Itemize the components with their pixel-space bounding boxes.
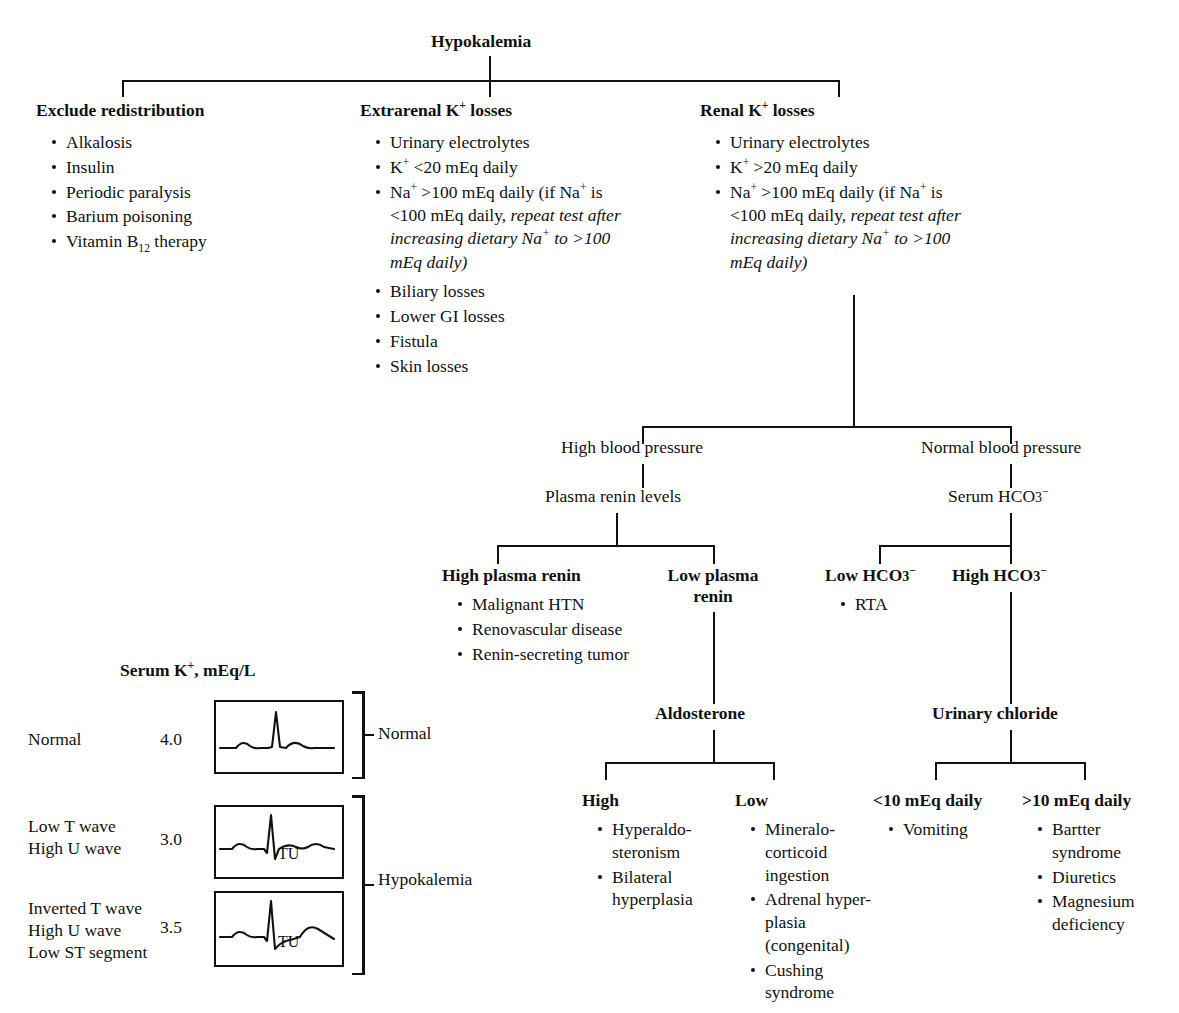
bullet-text-cont2: ingestion (765, 865, 829, 885)
list-item: Barium poisoning (50, 205, 280, 228)
connector-highbp-stem (642, 464, 644, 488)
node-high-plasma-renin: High plasma renin (442, 565, 581, 586)
ecg-bracket-normal (352, 691, 366, 779)
connector-to-high-renin (497, 545, 499, 564)
list-item: K+ >20 mEq daily (714, 156, 979, 179)
bullet-text: Urinary electrolytes (730, 132, 869, 152)
tu-text: TU (278, 933, 299, 950)
list-item: Biliary losses (374, 280, 639, 303)
urinary-chloride-label: Urinary chloride (932, 703, 1058, 723)
list-item: Bilateralhyperplasia (596, 866, 706, 912)
list-item: Insulin (50, 156, 280, 179)
bullet-text: Alkalosis (66, 132, 132, 152)
list-item: Mineralo-corticoidingestion (749, 818, 894, 886)
ecg-row-1-descriptor-line1: Normal (28, 729, 81, 751)
exclude-redistribution-heading: Exclude redistribution (36, 100, 204, 120)
node-urinary-chloride-high: >10 mEq daily (1022, 790, 1131, 811)
connector-hco3-stem (1010, 513, 1012, 546)
bullet-text: Bartter (1052, 819, 1101, 839)
exclude-redistribution-bullets: Alkalosis Insulin Periodic paralysis Bar… (50, 131, 280, 255)
bullet-text-cont: corticoid (765, 842, 827, 862)
low-plasma-renin-line2: renin (653, 586, 773, 607)
connector-renin-bar (497, 545, 715, 547)
urinary-chloride-low-bullets: Vomiting (887, 818, 1007, 843)
ecg-group-label-hypokalemia: Hypokalemia (378, 869, 472, 890)
plasma-renin-levels-label: Plasma renin levels (545, 486, 681, 506)
connector-normalbp-stem (1010, 464, 1012, 488)
ecg-trace-box-inverted-t: TU (214, 891, 344, 967)
urinary-chloride-low-heading: <10 mEq daily (873, 790, 982, 810)
bullet-text: Hyperaldo- (612, 819, 692, 839)
connector-to-low-hco3 (879, 545, 881, 564)
high-blood-pressure-label: High blood pressure (561, 437, 703, 457)
ecg-row-3-value: 3.5 (160, 917, 182, 938)
tu-text: TU (278, 845, 299, 862)
low-hco3-bullets: RTA (839, 593, 949, 618)
list-item: Diuretics (1036, 866, 1166, 889)
high-plasma-renin-bullets: Malignant HTN Renovascular disease Renin… (456, 593, 666, 667)
connector-urinary-chloride-stem (1010, 730, 1012, 763)
ecg-waveform-low-t-high-u (216, 807, 338, 873)
bullet-text-cont: steronism (612, 842, 680, 862)
connector-lowrenin-stem (713, 612, 715, 704)
connector-renal-stem (853, 295, 855, 427)
aldosterone-high-bullets: Hyperaldo-steronism Bilateralhyperplasia (596, 818, 706, 913)
urinary-chloride-high-bullets: Barttersyndrome Diuretics Magnesiumdefic… (1036, 818, 1166, 938)
connector-level1-bar (122, 80, 840, 82)
list-item: Renovascular disease (456, 618, 666, 641)
connector-aldosterone-stem (713, 730, 715, 763)
bullet-text: Lower GI losses (390, 306, 505, 326)
aldosterone-label: Aldosterone (655, 703, 745, 723)
bullet-text: Malignant HTN (472, 594, 584, 614)
list-item: Barttersyndrome (1036, 818, 1166, 864)
ecg-row-1-descriptor: Normal (28, 729, 81, 751)
ecg-group-label-normal: Normal (378, 723, 431, 744)
node-serum-hco3: Serum HCO3− (948, 486, 1049, 507)
bullet-text: Vomiting (903, 819, 968, 839)
bullet-text: Barium poisoning (66, 206, 192, 226)
bullet-text: Periodic paralysis (66, 182, 191, 202)
ecg-waveform-normal (216, 702, 338, 768)
connector-to-extrarenal (489, 80, 491, 97)
ecg-row-3-descriptor-line3: Low ST segment (28, 942, 147, 964)
ecg-title-b: , mEq/L (194, 660, 255, 680)
list-item: Vitamin B12 therapy (50, 230, 280, 253)
node-plasma-renin-levels: Plasma renin levels (545, 486, 681, 507)
bullet-text-cont: deficiency (1052, 914, 1125, 934)
list-item: Na+ >100 mEq daily (if Na+ is <100 mEq d… (374, 181, 639, 275)
list-item: Hyperaldo-steronism (596, 818, 706, 864)
list-item: Urinary electrolytes (714, 131, 979, 154)
bullet-text-cont: plasia (congenital) (765, 912, 850, 955)
bullet-text: Insulin (66, 157, 115, 177)
connector-hco3-bar (879, 545, 1011, 547)
aldosterone-low-heading: Low (735, 790, 768, 810)
node-urinary-chloride: Urinary chloride (932, 703, 1058, 724)
list-item: Skin losses (374, 355, 639, 378)
list-item: Fistula (374, 330, 639, 353)
node-urinary-chloride-low: <10 mEq daily (873, 790, 982, 811)
ecg-trace-box-normal (214, 700, 344, 774)
list-item: Vomiting (887, 818, 1007, 841)
list-item: Periodic paralysis (50, 181, 280, 204)
urinary-chloride-high-heading: >10 mEq daily (1022, 790, 1131, 810)
ecg-row-3-value-text: 3.5 (160, 917, 182, 937)
ecg-row-3-descriptor-line1: Inverted T wave (28, 898, 147, 920)
node-aldosterone-high: High (582, 790, 619, 811)
list-item: Urinary electrolytes (374, 131, 639, 154)
list-item: Alkalosis (50, 131, 280, 154)
connector-to-renal (838, 80, 840, 97)
ecg-waveform-inverted-t (216, 893, 338, 961)
bullet-text: Renin-secreting tumor (472, 644, 629, 664)
ecg-row-2-descriptor-line2: High U wave (28, 838, 121, 860)
node-aldosterone: Aldosterone (655, 703, 745, 724)
bullet-text: Renovascular disease (472, 619, 622, 639)
root-label: Hypokalemia (431, 31, 531, 51)
connector-urinary-chloride-bar (935, 762, 1086, 764)
aldosterone-low-bullets: Mineralo-corticoidingestion Adrenal hype… (749, 818, 894, 1006)
list-item: Renin-secreting tumor (456, 643, 666, 666)
bullet-text: Adrenal hyper- (765, 889, 871, 909)
ecg-row-2-value-text: 3.0 (160, 829, 182, 849)
bullet-text: Fistula (390, 331, 438, 351)
aldosterone-high-heading: High (582, 790, 619, 810)
extrarenal-bullets: Urinary electrolytes K+ <20 mEq daily Na… (374, 131, 639, 379)
